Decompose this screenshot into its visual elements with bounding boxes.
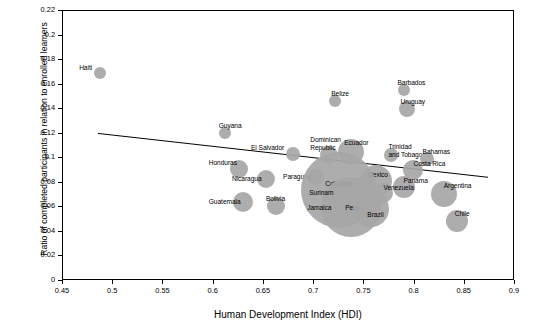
y-tick-label: 0.12	[21, 128, 55, 137]
y-tick-mark	[58, 157, 62, 158]
point-label: Argentina	[444, 182, 472, 190]
x-tick-mark	[414, 280, 415, 284]
y-tick-label: 0	[21, 275, 55, 284]
point-label: Uruguay	[401, 98, 426, 106]
x-tick-mark	[514, 280, 515, 284]
y-tick-label: 0.14	[21, 103, 55, 112]
point-label: Honduras	[209, 159, 237, 167]
x-tick-mark	[313, 280, 314, 284]
trend-line	[63, 11, 513, 279]
x-tick-mark	[112, 280, 113, 284]
x-tick-label: 0.6	[196, 286, 230, 295]
y-tick-mark	[58, 10, 62, 11]
point-label: Guyana	[219, 122, 242, 130]
bubble-point	[353, 191, 389, 227]
point-label: Chile	[455, 210, 470, 218]
plot-area: HaitiGuyanaBelizeBarbadosUruguayEl Salva…	[62, 10, 514, 280]
x-tick-label: 0.55	[145, 286, 179, 295]
x-tick-mark	[263, 280, 264, 284]
y-tick-label: 0.1	[21, 152, 55, 161]
point-label: Surinam	[309, 189, 333, 197]
y-tick-mark	[58, 84, 62, 85]
point-label: Guatemala	[209, 198, 241, 206]
y-tick-label: 0.22	[21, 5, 55, 14]
y-tick-label: 0.06	[21, 201, 55, 210]
point-label: Brazil	[367, 211, 383, 219]
y-tick-label: 0.2	[21, 30, 55, 39]
bubble-point	[94, 67, 106, 79]
x-tick-label: 0.9	[497, 286, 531, 295]
x-tick-label: 0.5	[95, 286, 129, 295]
x-tick-label: 0.45	[45, 286, 79, 295]
y-tick-mark	[58, 59, 62, 60]
point-label: Belize	[331, 90, 349, 98]
x-tick-mark	[363, 280, 364, 284]
y-tick-label: 0.02	[21, 250, 55, 259]
y-tick-label: 0.16	[21, 79, 55, 88]
point-label: Costa Rica	[414, 160, 446, 168]
y-tick-mark	[58, 280, 62, 281]
x-axis-title: Human Development Index (HDI)	[62, 309, 514, 320]
x-tick-label: 0.75	[346, 286, 380, 295]
bubble-chart: HaitiGuyanaBelizeBarbadosUruguayEl Salva…	[0, 0, 537, 335]
y-tick-mark	[58, 133, 62, 134]
x-tick-label: 0.65	[246, 286, 280, 295]
point-label: Bahamas	[423, 148, 451, 156]
x-tick-mark	[162, 280, 163, 284]
y-tick-mark	[58, 255, 62, 256]
point-label: Venezuela	[383, 184, 413, 192]
point-label: Nicaragua	[232, 175, 262, 183]
y-tick-mark	[58, 182, 62, 183]
point-label: Bolivia	[266, 195, 285, 203]
y-tick-label: 0.04	[21, 226, 55, 235]
point-label: Haiti	[79, 64, 92, 72]
y-tick-label: 0.18	[21, 54, 55, 63]
point-label: El Salvador	[251, 144, 284, 152]
y-tick-mark	[58, 108, 62, 109]
point-label: Barbados	[398, 79, 426, 87]
point-label: Trinidad and Tobago	[388, 143, 422, 158]
x-tick-mark	[213, 280, 214, 284]
x-tick-label: 0.85	[447, 286, 481, 295]
y-tick-mark	[58, 35, 62, 36]
y-tick-mark	[58, 206, 62, 207]
x-tick-mark	[62, 280, 63, 284]
x-tick-label: 0.8	[397, 286, 431, 295]
y-tick-label: 0.08	[21, 177, 55, 186]
y-axis-title: Ratio of completed participants in relat…	[39, 9, 49, 269]
point-label: Jamaica	[307, 204, 331, 212]
y-tick-mark	[58, 231, 62, 232]
x-tick-mark	[464, 280, 465, 284]
point-label: Ecuador	[344, 139, 368, 147]
x-tick-label: 0.7	[296, 286, 330, 295]
bubble-point	[286, 147, 300, 161]
